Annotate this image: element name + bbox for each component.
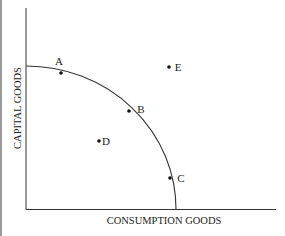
point-b-label: B xyxy=(137,103,144,115)
point-a-dot xyxy=(59,71,63,75)
point-b-dot xyxy=(127,109,131,113)
x-axis-label: CONSUMPTION GOODS xyxy=(107,215,222,226)
point-d-dot xyxy=(97,139,101,143)
point-c-label: C xyxy=(177,172,184,184)
y-axis-label: CAPITAL GOODS xyxy=(12,67,23,149)
point-a-label: A xyxy=(55,55,63,67)
point-d-label: D xyxy=(102,135,110,147)
point-e-dot xyxy=(167,65,171,69)
ppf-diagram xyxy=(0,0,285,236)
point-c-dot xyxy=(168,176,172,180)
ppf-curve xyxy=(26,66,176,210)
point-e-label: E xyxy=(175,61,182,73)
